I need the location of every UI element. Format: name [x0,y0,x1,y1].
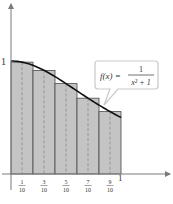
svg-text:1: 1 [21,179,24,185]
svg-text:7: 7 [87,179,90,185]
function-callout: f(x) = 1 x² + 1 [95,61,158,105]
x-tick-9-10: 910 [107,179,114,193]
svg-text:10: 10 [85,187,91,193]
function-numerator: 1 [139,65,143,74]
midpoint-rule-diagram: 1 110310510710910 1 f(x) = 1 x² + 1 [0,0,173,204]
svg-text:10: 10 [41,187,47,193]
function-lhs: f(x) = [100,71,121,81]
x-tick-7-10: 710 [85,179,92,193]
svg-text:10: 10 [19,187,25,193]
svg-text:5: 5 [65,179,68,185]
svg-text:10: 10 [107,187,113,193]
y-tick-1: 1 [1,56,6,67]
svg-text:3: 3 [43,179,46,185]
svg-text:10: 10 [63,187,69,193]
x-tick-3-10: 310 [41,179,48,193]
svg-text:9: 9 [109,179,112,185]
x-tick-labels: 110310510710910 [19,179,114,193]
x-tick-1-10: 110 [19,179,26,193]
x-end-label: 1 [118,173,123,183]
function-denominator: x² + 1 [130,78,150,87]
x-tick-5-10: 510 [63,179,70,193]
